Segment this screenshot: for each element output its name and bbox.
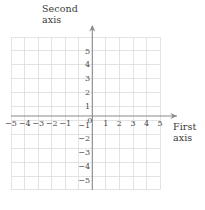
coordinate-plane-figure: Second axis First axis −5 −4 −3 −2 −1 0 …: [0, 0, 205, 210]
first-axis-title: First axis: [173, 121, 196, 143]
y-tick-label-5: 5: [76, 47, 90, 56]
second-axis-title-line2: axis: [42, 14, 78, 25]
y-tick-label--4: −4: [76, 162, 90, 171]
x-tick-label-4: 4: [140, 119, 154, 128]
x-tick-label-2: 2: [112, 119, 126, 128]
y-tick-label--2: −2: [76, 134, 90, 143]
x-tick-label-1: 1: [99, 119, 113, 128]
y-tick-label-2: 2: [76, 88, 90, 97]
second-axis-title: Second axis: [42, 3, 78, 25]
first-axis-title-line1: First: [173, 121, 196, 132]
x-tick-label--5: −5: [4, 119, 18, 128]
y-tick-label--5: −5: [76, 176, 90, 185]
second-axis-title-line1: Second: [42, 3, 78, 14]
y-tick-label-1: 1: [76, 102, 90, 111]
x-tick-label-3: 3: [126, 119, 140, 128]
y-tick-label--1: −1: [76, 121, 90, 130]
x-tick-label--4: −4: [18, 119, 32, 128]
x-tick-label--3: −3: [31, 119, 45, 128]
first-axis-title-line2: axis: [173, 132, 196, 143]
x-tick-label--2: −2: [45, 119, 59, 128]
coordinate-grid-canvas: [0, 0, 205, 210]
y-tick-label-3: 3: [76, 74, 90, 83]
x-tick-label-5: 5: [153, 119, 167, 128]
y-tick-label-4: 4: [76, 60, 90, 69]
x-tick-label--1: −1: [58, 119, 72, 128]
y-tick-label--3: −3: [76, 148, 90, 157]
